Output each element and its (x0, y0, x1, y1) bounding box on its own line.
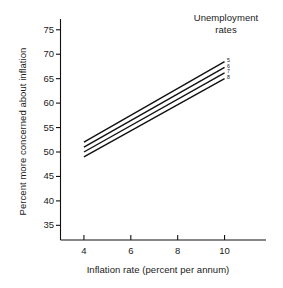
legend-title-line1: Unemployment (172, 12, 280, 24)
x-axis-title: Inflation rate (percent per annum) (42, 264, 274, 275)
chart-figure: Unemployment rates Inflation rate (perce… (0, 0, 283, 288)
x-tick-label: 4 (74, 245, 94, 256)
y-tick-label: 55 (32, 122, 54, 133)
x-tick-label: 10 (215, 245, 235, 256)
x-tick-label: 8 (168, 245, 188, 256)
data-series-lines (84, 62, 225, 157)
tick-marks (56, 30, 225, 240)
legend-title-line2: rates (172, 24, 280, 36)
axis-lines (61, 19, 267, 240)
y-tick-label: 45 (32, 170, 54, 181)
plot-area (0, 0, 283, 288)
x-tick-label: 6 (121, 245, 141, 256)
y-tick-label: 65 (32, 73, 54, 84)
legend-title: Unemployment rates (172, 12, 280, 35)
y-tick-label: 70 (32, 48, 54, 59)
series-end-label: 8 (227, 75, 237, 80)
y-tick-label: 35 (32, 219, 54, 230)
y-axis-title: Percent more concerned about inflation (17, 22, 28, 242)
y-tick-label: 40 (32, 195, 54, 206)
y-tick-label: 75 (32, 24, 54, 35)
y-tick-label: 50 (32, 146, 54, 157)
y-tick-label: 60 (32, 97, 54, 108)
